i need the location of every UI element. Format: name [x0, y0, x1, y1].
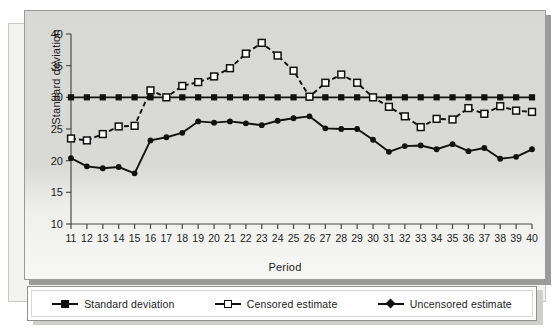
chart-plot-area — [25, 11, 546, 280]
legend-label: Censored estimate — [247, 298, 338, 310]
series-standard-deviation — [68, 94, 535, 100]
legend-entries: Standard deviationCensored estimateUncen… — [31, 290, 533, 317]
axis-ticks — [66, 34, 532, 229]
open-square-icon — [215, 299, 241, 309]
clipped-caption-strip — [0, 0, 559, 6]
legend-entry[interactable]: Censored estimate — [215, 298, 338, 310]
axis-lines — [71, 34, 532, 224]
figure-page: Standard deviation Period 10152025303540… — [0, 0, 559, 327]
filled-diamond-icon — [378, 299, 404, 309]
legend-entry[interactable]: Uncensored estimate — [378, 298, 512, 310]
series-censored-estimate — [68, 39, 536, 143]
legend-label: Standard deviation — [84, 298, 174, 310]
legend-label: Uncensored estimate — [410, 298, 512, 310]
legend-entry[interactable]: Standard deviation — [52, 298, 174, 310]
chart-panel: Standard deviation Period 10152025303540… — [24, 10, 546, 280]
filled-square-icon — [52, 299, 78, 309]
legend-card: Standard deviationCensored estimateUncen… — [27, 286, 537, 321]
